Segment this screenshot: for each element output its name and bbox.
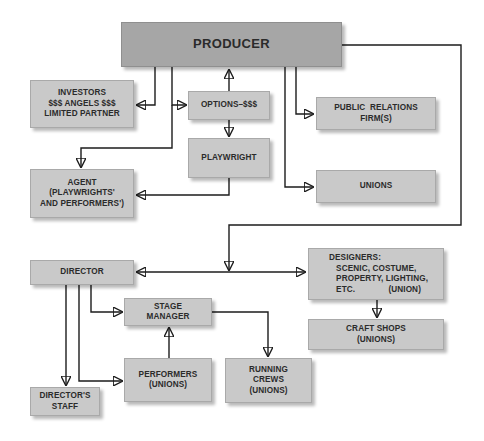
node-running-crews: RUNNING CREWS (UNIONS) (225, 358, 312, 403)
node-label: RUNNING (249, 365, 288, 376)
node-unions: UNIONS (316, 170, 436, 203)
node-label: ETC. (UNION) (329, 285, 421, 296)
node-designers: DESIGNERS: SCENIC, COSTUME, PROPERTY, LI… (308, 248, 444, 300)
node-playwright: PLAYWRIGHT (188, 138, 270, 178)
node-label: (UNIONS) (357, 335, 395, 346)
edge-producer-options (172, 67, 186, 105)
edge-producer-unions (285, 67, 313, 187)
node-label: DIRECTOR (60, 267, 103, 278)
edge-stage-manager-running-crews (212, 312, 268, 356)
node-label: SCENIC, COSTUME, (329, 264, 416, 275)
node-label: OPTIONS–$$$ (201, 100, 257, 111)
node-label: FIRM(S) (360, 114, 392, 125)
node-label: PLAYWRIGHT (201, 153, 256, 164)
edge-playwright-agent (137, 178, 229, 195)
node-label: PUBLIC RELATIONS (334, 103, 417, 114)
node-label: PERFORMERS (139, 370, 198, 381)
edge-director-stage-manager (91, 285, 122, 312)
node-label: DESIGNERS: (329, 253, 381, 264)
edge-director-performers (79, 285, 122, 381)
node-director: DIRECTOR (30, 260, 134, 285)
node-label: $$$ ANGELS $$$ (48, 99, 115, 110)
node-options: OPTIONS–$$$ (188, 91, 270, 120)
node-directors-staff: DIRECTOR'S STAFF (30, 387, 100, 416)
node-label: INVESTORS (58, 88, 106, 99)
node-label: PROPERTY, LIGHTING, (329, 274, 428, 285)
org-chart: PRODUCER INVESTORS $$$ ANGELS $$$ LIMITE… (0, 0, 484, 441)
node-performers: PERFORMERS (UNIONS) (124, 358, 212, 402)
node-producer: PRODUCER (121, 22, 342, 67)
node-label: CREWS (253, 375, 284, 386)
node-label: PRODUCER (193, 39, 270, 50)
node-label: DIRECTOR'S (39, 391, 90, 402)
node-stage-manager: STAGE MANAGER (124, 298, 212, 326)
node-investors: INVESTORS $$$ ANGELS $$$ LIMITED PARTNER (30, 80, 134, 128)
node-label: UNIONS (360, 181, 392, 192)
node-label: AND PERFORMERS') (40, 199, 124, 210)
node-craft-shops: CRAFT SHOPS (UNIONS) (308, 319, 444, 350)
node-label: (PLAYWRIGHTS' (49, 188, 115, 199)
edge-producer-investors (137, 67, 155, 105)
node-label: (UNIONS) (149, 380, 187, 391)
node-agent: AGENT (PLAYWRIGHTS' AND PERFORMERS') (30, 169, 134, 218)
node-public-relations: PUBLIC RELATIONS FIRM(S) (316, 97, 436, 130)
node-label: STAGE (154, 302, 182, 313)
node-label: CRAFT SHOPS (346, 324, 406, 335)
node-label: LIMITED PARTNER (44, 109, 120, 120)
node-label: (UNIONS) (249, 386, 287, 397)
edge-producer-public-relations (296, 67, 313, 114)
node-label: MANAGER (146, 312, 189, 323)
node-label: AGENT (67, 178, 96, 189)
node-label: STAFF (52, 402, 78, 413)
